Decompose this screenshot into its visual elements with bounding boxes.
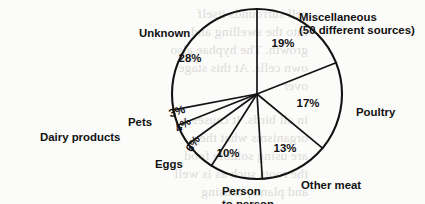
slice-category-label: Dairy products — [40, 131, 120, 143]
slice-category-label-line2: to person — [222, 198, 274, 204]
slice-category-label: Poultry — [356, 106, 396, 118]
slice-category-label: Pets — [128, 116, 152, 128]
slice-percentage-label: 17% — [297, 97, 320, 109]
slice-percentage-label: 19% — [272, 37, 295, 49]
pie-chart-svg: 19%Miscellaneous(50 different sources)17… — [0, 0, 425, 204]
slice-category-label: Miscellaneous — [299, 11, 377, 23]
pie-slice-divider — [257, 63, 336, 94]
slice-percentage-label: 10% — [217, 147, 240, 159]
slice-percentage-label: 28% — [179, 52, 202, 64]
pie-chart-figure: cell surrounds itselfinto the swelling a… — [0, 0, 425, 204]
slice-category-label: Other meat — [301, 179, 361, 191]
slice-category-label: Eggs — [155, 158, 183, 170]
pie-slice-divider — [257, 94, 262, 179]
slice-category-label-line2: (50 different sources) — [299, 24, 415, 36]
pie-labels-group: 19%Miscellaneous(50 different sources)17… — [40, 11, 415, 204]
pie-slice-divider — [174, 94, 257, 110]
slice-category-label: Unknown — [139, 27, 190, 39]
pie-slice-divider — [178, 94, 257, 125]
slice-percentage-label: 13% — [274, 142, 297, 154]
pie-slice-divider — [188, 94, 257, 144]
slice-category-label: Person — [222, 185, 261, 197]
